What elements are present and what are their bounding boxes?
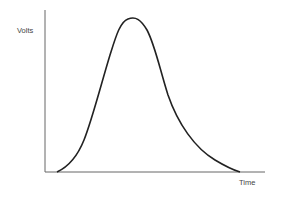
y-axis-label: Volts [17,26,33,35]
pulse-curve [57,18,240,172]
chart-canvas [0,0,282,197]
x-axis-label: Time [239,178,255,187]
